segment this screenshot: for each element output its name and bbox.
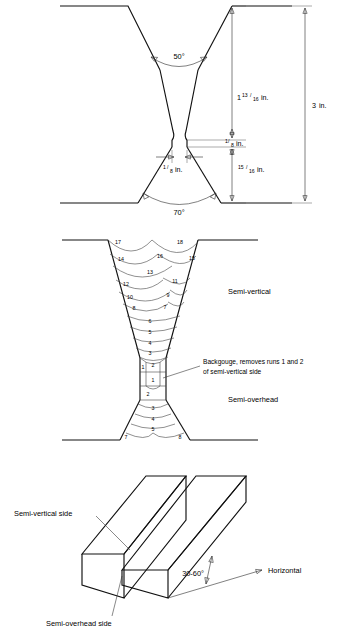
run-number: 8 — [179, 434, 182, 440]
left-plate — [82, 476, 186, 598]
upper-depth-denominator: 16 — [253, 96, 259, 102]
run-number: 12 — [123, 281, 129, 287]
upper-depth-whole: 1 — [237, 93, 241, 102]
upper-depth-numerator: 13 — [242, 92, 248, 98]
root-face-denominator: 8 — [231, 142, 234, 148]
backgouge-note-line-2: of semi-vertical side — [203, 368, 262, 375]
run-number: 4 — [149, 340, 152, 346]
total-thickness-unit: in. — [319, 101, 327, 110]
lower-depth-unit: in. — [257, 165, 265, 174]
run-sequence-figure: 17 18 14 16 15 13 12 11 10 9 8 7 6 5 4 3… — [0, 228, 358, 460]
run-number: 2 — [147, 391, 150, 397]
root-gap-dimension: 1 / 8 in. — [163, 164, 183, 174]
run-number: 6 — [149, 318, 152, 324]
run-number: 3 — [149, 350, 152, 356]
svg-text:/: / — [228, 138, 230, 144]
lower-depth-dimension: 15 / 16 in. — [238, 164, 265, 174]
run-number: 3 — [152, 405, 155, 411]
root-gap-numerator: 1 — [163, 164, 166, 170]
svg-text:/: / — [167, 164, 169, 170]
semi-overhead-label: Semi-overhead — [228, 395, 278, 404]
run-number: 18 — [177, 239, 183, 245]
total-thickness-whole: 3 — [312, 101, 316, 110]
upper-depth-dimension: 1 13 / 16 in. — [237, 92, 269, 102]
semi-overhead-run-numbers: 1 2 3 4 5 7 8 — [125, 377, 182, 440]
run-number: 4 — [152, 416, 155, 422]
svg-text:/: / — [250, 92, 252, 98]
isometric-figure: 30-60° Horizontal Semi-vertical side Sem… — [0, 458, 358, 635]
lower-depth-numerator: 15 — [238, 164, 244, 170]
total-thickness-dimension: 3 in. — [312, 101, 327, 110]
svg-text:/: / — [246, 164, 248, 170]
run-number: 9 — [167, 292, 170, 298]
root-face-dimension: 1 / 8 in. — [225, 138, 244, 148]
groove-preparation-figure: 50° 70° 1 / 8 in. 1 13 / 16 in. 1 / 8 in… — [0, 0, 358, 232]
right-plate — [122, 476, 246, 598]
run-number: 7 — [125, 434, 128, 440]
run-number: 16 — [157, 253, 163, 259]
run-number: 15 — [189, 255, 195, 261]
run-number: 17 — [115, 239, 121, 245]
run-number: 2 — [152, 362, 155, 368]
run-number: 8 — [133, 305, 136, 311]
horizontal-label: Horizontal — [268, 566, 302, 575]
run-number: 1 — [142, 364, 145, 370]
semi-overhead-bead-layers — [126, 404, 184, 438]
run-number: 10 — [127, 294, 133, 300]
upper-bevel-angle-label: 50° — [173, 52, 184, 61]
semi-overhead-side-label: Semi-overhead side — [46, 619, 112, 628]
upper-depth-unit: in. — [261, 93, 269, 102]
run-number: 5 — [149, 329, 152, 335]
run-number: 13 — [147, 269, 153, 275]
run-number: 11 — [172, 278, 178, 284]
lower-bevel-angle-label: 70° — [173, 208, 184, 217]
run-number: 14 — [118, 256, 124, 262]
run-number: 7 — [164, 304, 167, 310]
semi-vertical-run-numbers: 17 18 14 16 15 13 12 11 10 9 8 7 6 5 4 3… — [115, 239, 195, 370]
run-number: 5 — [152, 426, 155, 432]
semi-vertical-side-label: Semi-vertical side — [14, 509, 72, 518]
root-face-unit: in. — [236, 139, 244, 148]
backgouge-note-line-1: Backgouge, removes runs 1 and 2 — [203, 358, 304, 366]
inclination-angle-label: 30-60° — [182, 569, 204, 578]
run-number: 1 — [152, 377, 155, 383]
lower-depth-denominator: 16 — [249, 168, 255, 174]
root-gap-denominator: 8 — [170, 168, 173, 174]
root-gap-unit: in. — [175, 165, 183, 174]
semi-vertical-label: Semi-vertical — [228, 287, 271, 296]
